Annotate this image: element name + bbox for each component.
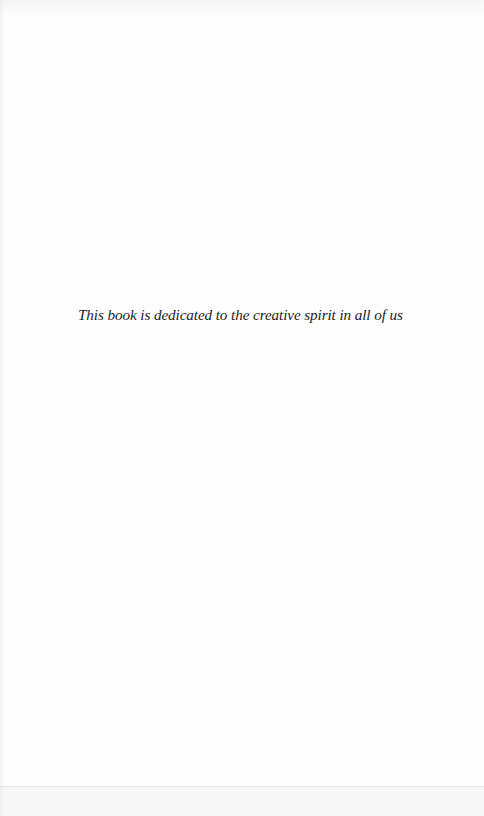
scan-bleed-top: [0, 0, 484, 14]
scan-edge-bottom: [0, 787, 484, 816]
dedication-text: This book is dedicated to the creative s…: [78, 305, 378, 325]
scan-edge-left: [0, 0, 5, 816]
book-page: This book is dedicated to the creative s…: [0, 0, 484, 816]
